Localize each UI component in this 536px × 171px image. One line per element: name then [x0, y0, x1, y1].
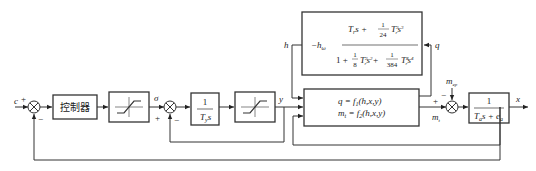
signal-y-label: y [278, 94, 283, 104]
signal-m-ep-label: mep [446, 76, 458, 87]
svg-text:1: 1 [353, 51, 357, 59]
svg-text:1: 1 [203, 97, 208, 107]
svg-text:−: − [38, 114, 43, 124]
svg-text:T4rs4: T4rs4 [401, 55, 414, 66]
signal-m-t-label: mt [432, 112, 441, 123]
signal-x-label: x [515, 94, 520, 104]
svg-text:+: + [155, 113, 160, 123]
controller-label: 控制器 [60, 101, 90, 113]
svg-text:T3rs3: T3rs3 [391, 24, 404, 35]
svg-text:Tys: Tys [200, 112, 212, 123]
svg-text:1: 1 [487, 96, 492, 106]
svg-text:1: 1 [390, 51, 394, 59]
svg-text:T2rs2+: T2rs2+ [360, 55, 379, 66]
svg-text:−: − [174, 115, 179, 125]
svg-text:+: + [433, 96, 438, 106]
svg-text:−hω: −hω [311, 40, 326, 51]
svg-text:mt = f2(h,x,y): mt = f2(h,x,y) [338, 108, 385, 119]
signal-q-label: q [435, 40, 440, 50]
svg-text:1 +: 1 + [336, 55, 348, 65]
svg-text:24: 24 [380, 31, 388, 39]
svg-text:Trs +: Trs + [348, 24, 367, 35]
signal-sigma-label: σ [154, 93, 159, 103]
svg-text:8: 8 [353, 61, 357, 69]
svg-text:q = f1(h,x,y): q = f1(h,x,y) [338, 96, 382, 107]
svg-text:384: 384 [387, 61, 398, 69]
block-diagram: c + − 控制器 σ + − 1 Tys y h q −hω Trs + 1 … [0, 0, 536, 171]
svg-text:−: − [441, 90, 446, 100]
svg-text:1: 1 [381, 21, 385, 29]
signal-c-label: c [14, 96, 18, 106]
signal-h-label: h [284, 40, 289, 50]
svg-text:+: + [21, 94, 26, 104]
svg-text:Tas + ea: Tas + ea [474, 111, 503, 122]
